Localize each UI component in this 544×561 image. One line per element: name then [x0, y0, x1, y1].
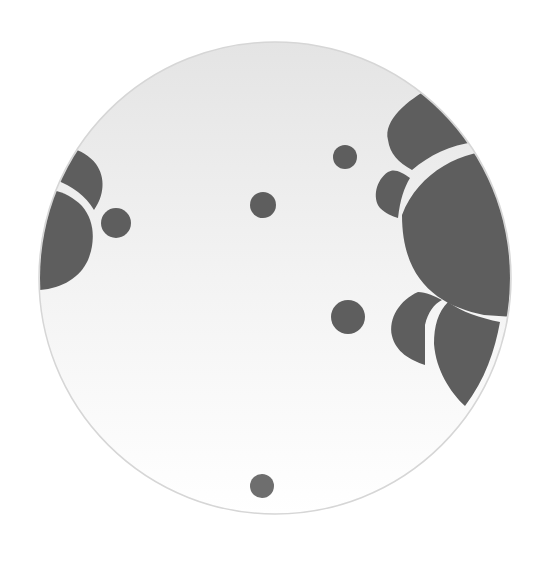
dot [333, 145, 357, 169]
dot [101, 208, 131, 238]
dot [331, 300, 365, 334]
dot [250, 474, 274, 498]
dot [250, 192, 276, 218]
plate-photo [0, 0, 544, 561]
